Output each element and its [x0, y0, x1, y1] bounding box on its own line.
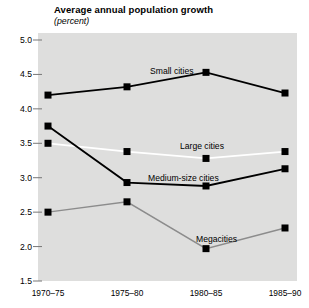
data-point-marker	[203, 155, 210, 162]
data-point-marker	[45, 92, 52, 99]
y-axis-tick-label: 3.5	[4, 138, 32, 148]
data-point-marker	[282, 148, 289, 155]
y-axis-tick-label: 3.0	[4, 173, 32, 183]
data-point-marker	[203, 182, 210, 189]
data-point-marker	[124, 83, 131, 90]
y-axis-tick-label: 4.0	[4, 104, 32, 114]
data-point-marker	[282, 224, 289, 231]
data-point-marker	[45, 140, 52, 147]
series-lines	[48, 72, 285, 248]
data-point-marker	[203, 69, 210, 76]
series-label: Small cities	[150, 66, 193, 76]
series-label: Medium-size cities	[148, 173, 219, 183]
x-axis-tick-label: 1975–80	[111, 288, 144, 298]
plot-svg	[0, 0, 309, 308]
x-axis-tick-label: 1970–75	[32, 288, 65, 298]
series-label: Megacities	[196, 234, 237, 244]
data-point-marker	[45, 123, 52, 130]
y-axis: 5.04.54.03.53.02.52.01.5	[0, 0, 32, 308]
data-point-marker	[203, 245, 210, 252]
y-axis-tick-label: 1.5	[4, 276, 32, 286]
y-axis-tick-label: 2.5	[4, 207, 32, 217]
series-line	[48, 202, 285, 249]
y-axis-tick-label: 2.0	[4, 242, 32, 252]
x-axis-tick-label: 1985–90	[269, 288, 302, 298]
data-point-marker	[282, 165, 289, 172]
data-point-marker	[124, 148, 131, 155]
data-point-marker	[124, 179, 131, 186]
population-growth-chart: Average annual population growth (percen…	[0, 0, 309, 308]
y-axis-tick-label: 5.0	[4, 35, 32, 45]
data-point-marker	[282, 90, 289, 97]
data-point-marker	[45, 209, 52, 216]
data-point-marker	[124, 198, 131, 205]
y-axis-tick-marks	[33, 40, 42, 281]
y-axis-tick-label: 4.5	[4, 69, 32, 79]
x-axis-tick-label: 1980–85	[190, 288, 223, 298]
series-label: Large cities	[180, 141, 224, 151]
